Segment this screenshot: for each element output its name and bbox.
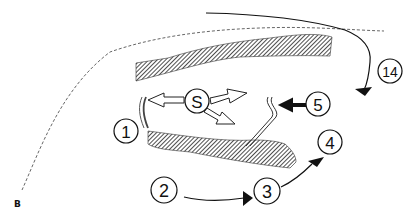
label-1: 1 (114, 119, 138, 143)
label-2: 2 (151, 177, 177, 203)
label-4-text: 4 (325, 134, 334, 153)
label-4: 4 (318, 130, 342, 154)
upper-hatched-bar (136, 34, 332, 81)
arrow-14-head (355, 87, 372, 96)
label-5: 5 (306, 92, 330, 116)
hollow-arrow-lower-right (204, 108, 235, 124)
arrow-2-to-3-head (243, 191, 253, 206)
right-double-line-a (246, 97, 273, 146)
label-3-text: 3 (262, 182, 272, 202)
right-double-line-b (250, 97, 277, 146)
arrow-5 (280, 99, 306, 111)
hollow-arrow-left (148, 93, 184, 107)
diagram-canvas: S 1 5 14 4 2 3 (0, 0, 412, 220)
label-1-text: 1 (121, 123, 130, 142)
label-s: S (185, 89, 209, 113)
hollow-arrow-upper-right (210, 89, 247, 104)
label-3: 3 (254, 178, 280, 204)
label-5-text: 5 (313, 96, 322, 115)
label-2-text: 2 (159, 181, 169, 201)
diagram: S 1 5 14 4 2 3 (0, 0, 412, 220)
left-double-line-inner (144, 97, 148, 128)
label-14: 14 (378, 59, 402, 83)
label-s-text: S (191, 93, 202, 112)
arrow-2-to-3 (184, 197, 244, 201)
lower-hatched-bar (148, 131, 296, 168)
panel-letter: B (14, 199, 21, 209)
label-14-text: 14 (382, 64, 398, 80)
